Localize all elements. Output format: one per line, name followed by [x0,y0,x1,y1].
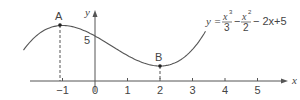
point-b [158,64,162,68]
y-axis-label: y [84,6,90,18]
svg-text:y =: y = [205,15,221,27]
x-tick-label: 1 [124,84,130,96]
svg-text:− 2x+5: − 2x+5 [253,15,287,27]
svg-text:3: 3 [224,22,230,33]
x-axis-arrow-icon [281,79,288,84]
point-b-label: B [155,51,162,63]
equation-label: y = x 3 3 − x 2 2 − 2x+5 [205,9,287,33]
cubic-graph: −1012345 x y 5 A B y = x 3 3 − x 2 2 − 2… [0,0,300,100]
y-axis-arrow-icon [93,10,98,17]
x-tick-label: 5 [254,84,260,96]
svg-text:2: 2 [248,9,252,15]
curve [24,26,206,67]
x-tick-label: 2 [157,84,163,96]
svg-text:3: 3 [229,9,233,15]
svg-text:x: x [222,11,228,22]
x-tick-label: 3 [189,84,195,96]
svg-text:x: x [241,11,247,22]
x-tick-label: 0 [92,84,98,96]
svg-text:−: − [234,15,240,27]
x-tick-label: −1 [56,84,69,96]
x-tick-label: 4 [222,84,228,96]
svg-text:2: 2 [243,22,249,33]
point-a [58,23,62,27]
y-intercept-label: 5 [84,34,90,46]
point-a-label: A [55,10,63,22]
x-axis-label: x [291,74,297,86]
